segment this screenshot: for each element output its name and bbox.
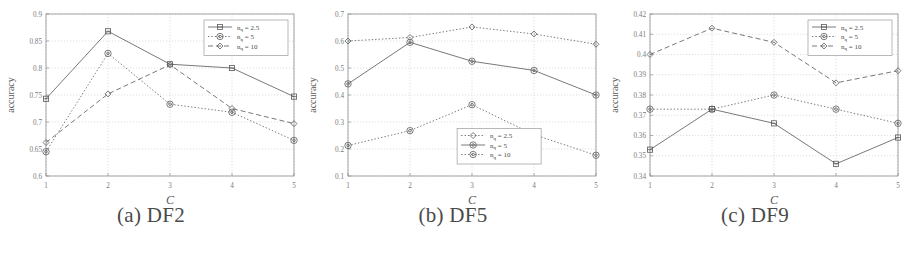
y-tick-label: 0.7 xyxy=(33,119,42,127)
y-tick-label: 0.7 xyxy=(335,11,344,19)
x-tick-label: 5 xyxy=(896,182,900,190)
y-tick-label: 0.4 xyxy=(335,92,344,100)
legend-label: nq = 5 xyxy=(841,33,858,42)
y-tick-label: 0.39 xyxy=(633,71,646,79)
caption-b: (b) DF5 xyxy=(418,203,487,228)
panel-b: 0.10.20.30.40.50.60.712345Caccuracynq = … xyxy=(302,0,604,262)
y-tick-label: 0.1 xyxy=(335,173,344,181)
y-tick-label: 0.38 xyxy=(633,92,646,100)
series-line xyxy=(46,65,294,143)
legend-label: nq = 2.5 xyxy=(490,132,513,141)
y-tick-label: 0.65 xyxy=(29,146,42,154)
data-point-marker xyxy=(833,106,839,112)
x-tick-label: 1 xyxy=(648,182,652,190)
y-axis-title: accuracy xyxy=(307,77,318,113)
caption-c: (c) DF9 xyxy=(721,203,789,228)
caption-a: (a) DF2 xyxy=(117,203,185,228)
y-tick-label: 0.6 xyxy=(335,38,344,46)
y-tick-label: 0.3 xyxy=(335,119,344,127)
chart-a: 0.60.650.70.750.80.850.912345Caccuracynq… xyxy=(0,0,302,205)
legend: nq = 2.5nq = 5nq = 10 xyxy=(457,129,541,165)
legend-label: nq = 2.5 xyxy=(237,24,260,33)
legend: nq = 2.5nq = 5nq = 10 xyxy=(204,20,288,56)
x-tick-label: 5 xyxy=(594,182,598,190)
x-tick-label: 1 xyxy=(346,182,350,190)
y-tick-label: 0.36 xyxy=(633,132,646,140)
y-tick-label: 0.34 xyxy=(633,173,646,181)
plot-area-a: 0.60.650.70.750.80.850.912345Caccuracynq… xyxy=(0,0,302,205)
chart-c: 0.340.350.360.370.380.390.40.410.4212345… xyxy=(604,0,906,205)
x-tick-label: 4 xyxy=(834,182,838,190)
x-axis-title: C xyxy=(770,193,779,205)
y-tick-label: 0.5 xyxy=(335,65,344,73)
legend-label: nq = 5 xyxy=(237,33,254,42)
x-tick-label: 2 xyxy=(408,182,412,190)
legend-label: nq = 10 xyxy=(237,43,258,52)
chart-b: 0.10.20.30.40.50.60.712345Caccuracynq = … xyxy=(302,0,604,205)
plot-area-b: 0.10.20.30.40.50.60.712345Caccuracynq = … xyxy=(302,0,604,205)
x-tick-label: 3 xyxy=(470,182,474,190)
figure-row: 0.60.650.70.750.80.850.912345Caccuracynq… xyxy=(0,0,908,262)
x-tick-label: 3 xyxy=(168,182,172,190)
y-tick-label: 0.42 xyxy=(633,11,646,19)
x-tick-label: 3 xyxy=(772,182,776,190)
y-tick-label: 0.8 xyxy=(33,65,42,73)
x-axis-title: C xyxy=(468,193,477,205)
x-tick-label: 1 xyxy=(44,182,48,190)
y-tick-label: 0.9 xyxy=(33,11,42,19)
y-tick-label: 0.41 xyxy=(633,31,646,39)
legend-label: nq = 10 xyxy=(490,151,511,160)
x-tick-label: 5 xyxy=(292,182,296,190)
legend-label: nq = 5 xyxy=(490,142,507,151)
y-tick-label: 0.4 xyxy=(637,51,646,59)
y-tick-label: 0.75 xyxy=(29,92,42,100)
y-axis-title: accuracy xyxy=(609,77,620,113)
y-tick-label: 0.37 xyxy=(633,112,646,120)
legend: nq = 2.5nq = 5nq = 10 xyxy=(808,20,892,56)
legend-label: nq = 2.5 xyxy=(841,24,864,33)
y-tick-label: 0.6 xyxy=(33,173,42,181)
x-tick-label: 2 xyxy=(710,182,714,190)
x-tick-label: 2 xyxy=(106,182,110,190)
legend-label: nq = 10 xyxy=(841,43,862,52)
plot-area-c: 0.340.350.360.370.380.390.40.410.4212345… xyxy=(604,0,906,205)
y-axis-title: accuracy xyxy=(5,77,16,113)
y-tick-label: 0.35 xyxy=(633,152,646,160)
x-tick-label: 4 xyxy=(532,182,536,190)
x-axis-title: C xyxy=(166,193,175,205)
panel-a: 0.60.650.70.750.80.850.912345Caccuracynq… xyxy=(0,0,302,262)
y-tick-label: 0.85 xyxy=(29,38,42,46)
panel-c: 0.340.350.360.370.380.390.40.410.4212345… xyxy=(604,0,906,262)
x-tick-label: 4 xyxy=(230,182,234,190)
y-tick-label: 0.2 xyxy=(335,146,344,154)
